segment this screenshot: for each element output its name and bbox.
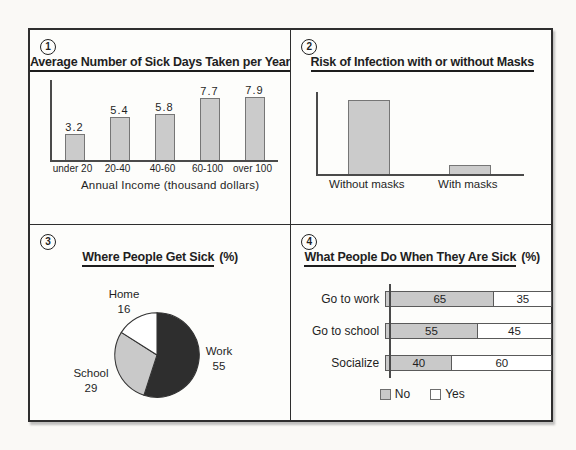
category-label: under 20	[50, 163, 95, 174]
sick-behavior-chart: Go to work6535Go to school5545Socialize4…	[297, 291, 553, 371]
row-label: Go to work	[297, 292, 385, 306]
bar-group: 7.9	[232, 84, 277, 160]
bar	[110, 117, 130, 160]
bar-group: 7.7	[187, 85, 232, 160]
sick-days-plot: 3.25.45.87.77.9	[50, 80, 278, 162]
bar-group: 5.4	[97, 104, 142, 160]
bar-segment-yes: 35	[493, 291, 552, 307]
sick-behavior-legend: No Yes	[291, 387, 553, 401]
sick-behavior-axis-line	[389, 284, 391, 378]
bar	[155, 114, 175, 160]
bar-value-label: 5.4	[110, 104, 128, 116]
panel-1-title-row: Average Number of Sick Days Taken per Ye…	[30, 55, 290, 69]
category-label: 20-40	[95, 163, 140, 174]
stacked-bar: 5545	[385, 323, 553, 339]
panel-mask-risk: 2 Risk of Infection with or without Mask…	[291, 30, 553, 225]
legend-label-yes: Yes	[445, 387, 465, 401]
sick-places-pie	[113, 311, 201, 399]
legend-label-no: No	[395, 387, 410, 401]
bar-value-label: 3.2	[65, 121, 83, 133]
panel-1-title: Average Number of Sick Days Taken per Ye…	[30, 55, 290, 72]
mask-risk-chart: Without masksWith masks	[316, 92, 553, 190]
stacked-bar-row: Socialize4060	[297, 355, 553, 371]
legend-item-no: No	[380, 387, 410, 401]
category-label: 40-60	[140, 163, 185, 174]
panel-4-title-suffix: (%)	[521, 250, 540, 264]
category-label: 60-100	[185, 163, 230, 174]
sick-behavior-rows: Go to work6535Go to school5545Socialize4…	[297, 291, 553, 371]
bar-segment-yes: 45	[477, 323, 553, 339]
panel-number-2: 2	[301, 39, 317, 55]
mask-risk-plot	[316, 92, 524, 176]
stacked-bar: 4060	[385, 355, 553, 371]
panel-number-1: 1	[40, 39, 56, 55]
sick-places-chart: Home 16 Work 55 School 29	[30, 225, 290, 420]
panel-4-title: What People Do When They Are Sick	[304, 250, 516, 267]
sick-days-categories: under 2020-4040-6060-100over 100	[50, 163, 278, 174]
bar	[449, 165, 491, 174]
panel-sick-days: 1 Average Number of Sick Days Taken per …	[30, 30, 291, 225]
stacked-bar: 6535	[385, 291, 553, 307]
bar	[200, 98, 220, 160]
category-label: With masks	[417, 178, 518, 190]
mask-risk-categories: Without masksWith masks	[316, 178, 522, 190]
pie-label-work: Work 55	[196, 344, 242, 374]
stacked-bar-row: Go to work6535	[297, 291, 553, 307]
bar-value-label: 7.7	[200, 85, 218, 97]
bar	[65, 134, 85, 160]
bar-segment-no: 55	[385, 323, 477, 339]
pie-label-school: School 29	[64, 366, 118, 396]
category-label: over 100	[230, 163, 275, 174]
legend-swatch-no	[380, 389, 391, 400]
legend-item-yes: Yes	[430, 387, 465, 401]
sick-days-chart: 3.25.45.87.77.9 under 2020-4040-6060-100…	[50, 80, 290, 191]
row-label: Go to school	[297, 324, 385, 338]
bar-segment-no: 65	[385, 291, 494, 307]
bar-value-label: 5.8	[155, 101, 173, 113]
bar-group	[419, 165, 520, 174]
panel-sick-behavior: 4 What People Do When They Are Sick(%) G…	[291, 225, 553, 420]
worksheet-board: 1 Average Number of Sick Days Taken per …	[28, 28, 553, 422]
bar-segment-yes: 60	[451, 355, 552, 371]
row-label: Socialize	[297, 356, 385, 370]
legend-swatch-yes	[430, 389, 441, 400]
category-label: Without masks	[316, 178, 417, 190]
panel-2-title-row: Risk of Infection with or without Masks	[291, 55, 553, 69]
bar-segment-no: 40	[385, 355, 452, 371]
bar-value-label: 7.9	[245, 84, 263, 96]
bar	[245, 97, 265, 160]
bar	[348, 100, 390, 174]
panel-sick-places: 3 Where People Get Sick(%) Home 16 Work …	[30, 225, 291, 420]
panel-4-title-row: What People Do When They Are Sick(%)	[291, 250, 553, 264]
stacked-bar-row: Go to school5545	[297, 323, 553, 339]
bar-group: 5.8	[142, 101, 187, 160]
bar-group	[318, 100, 419, 174]
panel-2-title: Risk of Infection with or without Masks	[311, 55, 534, 72]
panel-number-4: 4	[301, 234, 317, 250]
sick-days-xlabel: Annual Income (thousand dollars)	[50, 179, 290, 191]
pie-label-home: Home 16	[101, 287, 147, 317]
bar-group: 3.2	[52, 121, 97, 160]
